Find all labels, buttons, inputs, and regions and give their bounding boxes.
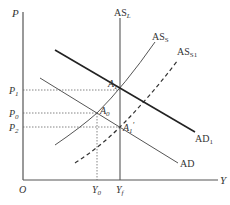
a1-label: A1	[107, 78, 118, 91]
ad-curve	[40, 78, 178, 163]
p2-label: P2	[8, 122, 19, 135]
point-labels: A1 A0 A1'	[99, 78, 135, 135]
a1-prime-label: A1'	[122, 121, 135, 135]
y-axis-label: P	[11, 7, 19, 19]
ad-shifted-label: AD1	[195, 133, 213, 146]
as-short-run-shifted-label: ASS1	[177, 46, 198, 59]
curve-labels: ASL ASS ASS1 AD1 AD	[114, 7, 213, 169]
y0-label: Y0	[92, 184, 102, 197]
as-long-run-label: ASL	[114, 7, 131, 20]
yf-label: Yf	[116, 184, 125, 197]
p0-label: P0	[8, 108, 19, 121]
guide-lines	[23, 90, 120, 180]
price-labels: P1 P0 P2	[8, 85, 19, 135]
p1-label: P1	[8, 85, 19, 98]
output-labels: Y0 Yf	[92, 184, 125, 197]
a0-label: A0	[99, 105, 110, 118]
origin-label: O	[19, 184, 26, 195]
as-short-run-shifted-curve	[75, 60, 178, 163]
ad-as-diagram: P Y O P1 P0 P2 Y0 Yf ASL ASS ASS1 AD1 AD…	[0, 0, 230, 205]
x-axis-label: Y	[220, 174, 228, 186]
as-short-run-curve	[55, 42, 155, 145]
ad-label: AD	[180, 158, 194, 169]
ad-shifted-curve	[55, 50, 195, 132]
